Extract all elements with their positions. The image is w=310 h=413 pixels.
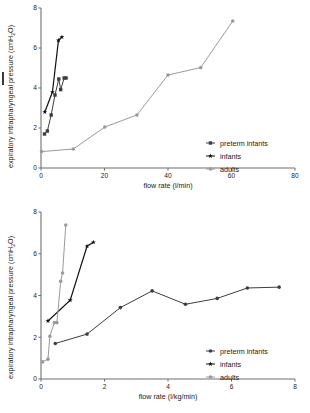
x-tick-label: 0 xyxy=(39,383,43,390)
data-point xyxy=(215,297,219,301)
x-tick-label: 2 xyxy=(103,383,107,390)
legend-item-adults: adults xyxy=(206,373,240,382)
x-tick-label: 4 xyxy=(166,383,170,390)
x-tick-label: 40 xyxy=(164,172,172,179)
data-point xyxy=(41,360,45,364)
data-point xyxy=(55,321,59,325)
legend-marker xyxy=(208,361,213,366)
legend-label: adults xyxy=(220,165,240,174)
legend-label: preterm infants xyxy=(220,139,268,148)
x-tick-label: 0 xyxy=(39,172,43,179)
x-tick-label: 6 xyxy=(230,383,234,390)
y-tick-label: 2 xyxy=(33,334,37,341)
legend-marker xyxy=(209,375,213,379)
plot-canvas: 0246802468expiratory intrapharyngeal pre… xyxy=(0,200,310,413)
legend-label: preterm infants xyxy=(220,347,268,356)
data-point xyxy=(150,289,154,293)
legend-label: infants xyxy=(220,360,242,369)
data-point xyxy=(231,19,235,23)
data-point xyxy=(53,342,57,346)
data-point xyxy=(61,271,65,275)
y-tick-label: 0 xyxy=(33,164,37,171)
x-tick-label: 8 xyxy=(293,383,297,390)
y-tick-label: 8 xyxy=(33,208,37,215)
tick-marks: 02468020406080 xyxy=(33,4,299,178)
legend-item-infants: infants xyxy=(206,360,242,369)
data-point xyxy=(48,334,52,338)
data-point xyxy=(64,76,67,79)
legend-marker xyxy=(209,167,213,171)
svg-text:flow rate (l/min): flow rate (l/min) xyxy=(143,181,192,190)
y-tick-label: 0 xyxy=(33,375,37,382)
legend-item-preterm-infants: preterm infants xyxy=(206,347,268,356)
series-line xyxy=(55,287,279,343)
y-tick-label: 4 xyxy=(33,84,37,91)
svg-text:flow rate (l/kg/min): flow rate (l/kg/min) xyxy=(139,392,198,401)
series-line xyxy=(48,242,93,321)
data-point xyxy=(119,306,123,310)
data-point xyxy=(199,66,203,70)
chart-flow-rate-absolute: 02468020406080expiratory intrapharyngeal… xyxy=(0,0,310,200)
series-preterm-infants xyxy=(53,285,280,345)
data-point xyxy=(46,357,50,361)
x-tick-label: 20 xyxy=(101,172,109,179)
data-point xyxy=(43,132,46,135)
tick-marks: 0246802468 xyxy=(33,208,297,389)
data-point xyxy=(49,113,52,116)
y-tick-label: 6 xyxy=(33,250,37,257)
data-point xyxy=(246,286,250,290)
data-point xyxy=(184,302,188,306)
x-tick-label: 80 xyxy=(291,172,299,179)
chart-flow-rate-weight-normalized: 0246802468expiratory intrapharyngeal pre… xyxy=(0,200,310,413)
plot-canvas: 02468020406080expiratory intrapharyngeal… xyxy=(0,0,310,200)
data-point xyxy=(135,113,139,117)
legend-item-preterm-infants: preterm infants xyxy=(206,139,268,148)
data-point xyxy=(85,332,89,336)
y-tick-label: 2 xyxy=(33,124,37,131)
y-tick-label: 4 xyxy=(33,292,37,299)
series-line xyxy=(42,21,233,152)
y-tick-label: 6 xyxy=(33,44,37,51)
data-point xyxy=(277,285,281,289)
legend-marker xyxy=(208,153,213,158)
svg-text:expiratory intrapharyngeal pre: expiratory intrapharyngeal pressure (cmH… xyxy=(6,236,16,379)
y-axis-label: expiratory intrapharyngeal pressure (cmH… xyxy=(6,25,16,168)
y-axis-label: expiratory intrapharyngeal pressure (cmH… xyxy=(6,236,16,379)
legend: preterm infantsinfantsadults xyxy=(206,347,268,382)
page-edge-artifact xyxy=(2,72,4,85)
svg-text:expiratory intrapharyngeal pre: expiratory intrapharyngeal pressure (cmH… xyxy=(6,25,16,168)
legend-label: infants xyxy=(220,152,242,161)
data-point xyxy=(59,280,63,284)
data-point xyxy=(40,150,44,154)
data-point xyxy=(57,77,60,80)
legend-marker xyxy=(209,349,213,353)
legend-label: adults xyxy=(220,373,240,382)
data-point xyxy=(42,109,47,114)
data-point xyxy=(166,73,170,77)
series-adults xyxy=(40,19,235,153)
legend-item-infants: infants xyxy=(206,152,242,161)
x-axis-label: flow rate (l/kg/min) xyxy=(139,392,198,401)
x-axis-label: flow rate (l/min) xyxy=(143,181,192,190)
series-infants xyxy=(46,240,96,323)
data-point xyxy=(46,129,49,132)
legend-marker xyxy=(209,141,212,144)
legend-item-adults: adults xyxy=(206,165,240,174)
data-point xyxy=(103,125,107,129)
y-tick-label: 8 xyxy=(33,4,37,11)
data-point xyxy=(59,88,62,91)
data-point xyxy=(64,223,68,227)
data-point xyxy=(72,147,76,151)
